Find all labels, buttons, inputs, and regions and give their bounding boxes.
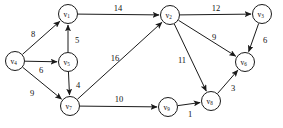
graph-node-v3[interactable]: v3: [253, 5, 272, 24]
edge-weight-v5-v1: 5: [75, 35, 79, 45]
graph-node-v8[interactable]: v8: [202, 92, 221, 111]
graph-node-v6[interactable]: v6: [236, 53, 255, 72]
graph-edge-v1-v2: [78, 14, 159, 15]
edge-weight-v4-v5: 6: [39, 65, 43, 75]
edge-weight-v2-v8: 11: [178, 55, 186, 65]
edge-weight-v5-v7: 4: [76, 80, 81, 90]
edge-weight-v4-v1: 8: [31, 29, 35, 39]
graph-edge-v4-v1: [22, 21, 59, 54]
edge-weight-v8-v6: 3: [231, 83, 235, 93]
edge-weight-v4-v7: 9: [30, 88, 34, 98]
edge-weight-v7-v2: 16: [111, 53, 120, 63]
node-layer: v1v2v3v4v5v6v7v8v9: [6, 5, 272, 117]
graph-canvas: 8514694161291161013 v1v2v3v4v5v6v7v8v9: [0, 0, 283, 128]
graph-edge-v7-v9: [80, 106, 157, 107]
graph-edge-v2-v3: [180, 14, 251, 15]
graph-edge-v3-v6: [249, 23, 259, 51]
edge-layer: [22, 14, 258, 107]
graph-node-v9[interactable]: v9: [159, 98, 178, 117]
edge-weight-v3-v6: 6: [263, 35, 267, 45]
graph-edge-v7-v2: [77, 22, 161, 99]
graph-figure: 8514694161291161013 v1v2v3v4v5v6v7v8v9: [0, 0, 283, 128]
graph-edge-v5-v7: [68, 72, 69, 95]
edge-weight-v9-v8: 1: [188, 109, 192, 119]
graph-node-v1[interactable]: v1: [59, 5, 78, 24]
graph-edge-v4-v5: [25, 61, 57, 62]
graph-node-v2[interactable]: v2: [161, 6, 180, 25]
graph-node-v5[interactable]: v5: [59, 53, 78, 72]
graph-edge-v9-v8: [178, 103, 200, 106]
graph-node-v7[interactable]: v7: [61, 97, 80, 116]
edge-weight-v2-v6: 9: [212, 32, 216, 42]
edge-weight-v7-v9: 10: [115, 94, 124, 104]
edge-weight-v2-v3: 12: [212, 3, 221, 13]
graph-node-v4[interactable]: v4: [6, 52, 25, 71]
edge-weight-v1-v2: 14: [114, 3, 123, 13]
